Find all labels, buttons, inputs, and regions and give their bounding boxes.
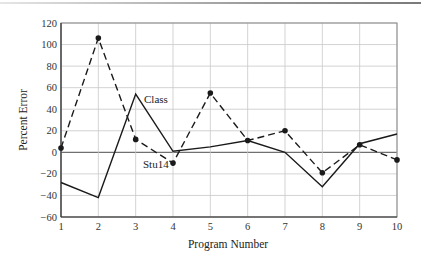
x-tick-label: 7	[282, 221, 287, 232]
data-point-marker	[245, 138, 251, 144]
plot-frame	[61, 23, 397, 217]
class-annotation: Class	[144, 93, 168, 105]
plot-border	[61, 23, 397, 217]
x-axis-label: Program Number	[188, 238, 268, 251]
y-tick-label: 60	[47, 82, 58, 93]
x-tick-label: 2	[96, 221, 101, 232]
y-tick-label: −20	[41, 168, 57, 179]
data-point-marker	[96, 35, 102, 41]
x-tick-label: 4	[170, 221, 176, 232]
grid-lines	[61, 23, 397, 217]
x-tick-label: 10	[392, 221, 403, 232]
y-tick-label: 0	[52, 147, 57, 158]
x-tick-label: 3	[133, 221, 138, 232]
data-point-marker	[357, 142, 363, 148]
y-tick-label: −60	[41, 212, 57, 223]
x-tick-label: 9	[357, 221, 362, 232]
data-point-marker	[282, 128, 288, 134]
y-axis-ticks: 120100806040200−20−40−60	[41, 18, 57, 223]
y-tick-label: 120	[41, 18, 57, 29]
x-tick-label: 5	[208, 221, 213, 232]
y-tick-label: 100	[41, 39, 57, 50]
data-point-marker	[133, 137, 139, 143]
series-lines	[58, 35, 400, 197]
data-point-marker	[58, 145, 64, 151]
stu14-annotation: Stu14	[143, 158, 169, 170]
x-tick-label: 6	[245, 221, 250, 232]
y-tick-label: 20	[47, 125, 58, 136]
series-class-line	[61, 94, 397, 198]
y-axis-label: Percent Error	[17, 89, 29, 151]
x-tick-label: 8	[320, 221, 325, 232]
y-tick-label: 80	[47, 61, 58, 72]
data-point-marker	[320, 170, 326, 176]
line-chart: 120100806040200−20−40−60 12345678910 Cla…	[0, 0, 426, 264]
data-point-marker	[394, 157, 400, 163]
data-point-marker	[208, 90, 214, 96]
x-axis-ticks: 12345678910	[58, 221, 402, 232]
y-tick-label: 40	[47, 104, 58, 115]
y-tick-label: −40	[41, 190, 57, 201]
data-point-marker	[170, 160, 176, 166]
x-tick-label: 1	[58, 221, 63, 232]
